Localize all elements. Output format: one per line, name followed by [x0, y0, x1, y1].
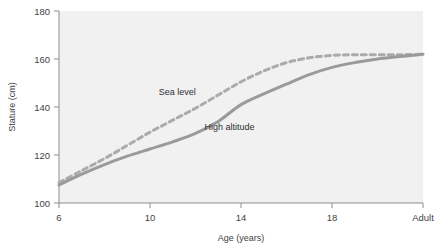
y-tick-label: 160	[34, 54, 50, 65]
y-axis-ticks: 100120140160180	[34, 6, 59, 209]
y-axis-title: Stature (cm)	[7, 82, 17, 132]
x-axis-ticks: 6101418Adult	[56, 203, 434, 223]
annotation-high-altitude: High altitude	[205, 122, 255, 132]
x-tick-label: Adult	[412, 212, 434, 223]
y-tick-label: 180	[34, 6, 50, 17]
plot-area-background	[59, 11, 423, 203]
annotation-sea-level: Sea level	[159, 87, 196, 97]
x-tick-label: 18	[327, 212, 338, 223]
chart-figure: 100120140160180 6101418Adult Sea levelHi…	[0, 0, 444, 250]
y-tick-label: 100	[34, 198, 50, 209]
x-tick-label: 10	[145, 212, 156, 223]
x-tick-label: 14	[236, 212, 247, 223]
x-axis-title: Age (years)	[218, 233, 265, 243]
y-tick-label: 120	[34, 150, 50, 161]
y-tick-label: 140	[34, 102, 50, 113]
x-tick-label: 6	[56, 212, 61, 223]
stature-line-chart: 100120140160180 6101418Adult Sea levelHi…	[0, 0, 444, 250]
